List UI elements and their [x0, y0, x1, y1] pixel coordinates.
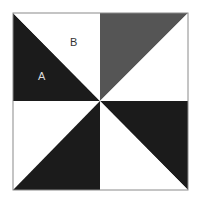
label-b: B — [70, 37, 77, 48]
label-a: A — [38, 71, 45, 82]
pinwheel-diagram — [0, 0, 200, 205]
